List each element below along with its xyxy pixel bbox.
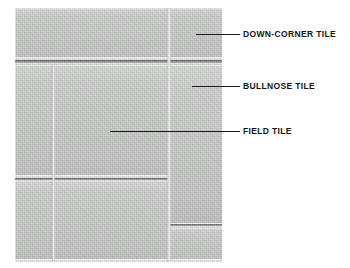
grout-line-h-top	[15, 60, 168, 65]
lower-left-field-tile	[15, 180, 52, 262]
top-wide-field-tile	[15, 8, 168, 60]
left-narrow-field-tile	[15, 65, 52, 178]
tile-photo-panel	[15, 8, 222, 262]
grout-line-h-top-r	[170, 60, 222, 65]
callout-label-down-corner: DOWN-CORNER TILE	[243, 30, 336, 39]
callout-label-field: FIELD TILE	[243, 127, 292, 136]
large-field-tile	[54, 65, 168, 178]
leader-line-field	[110, 131, 240, 132]
lower-bullnose-tile	[170, 228, 222, 262]
grout-line-h-right	[170, 224, 222, 228]
leader-line-bullnose	[192, 86, 240, 87]
grout-line-v-right	[167, 8, 171, 262]
leader-line-down-corner	[196, 34, 240, 35]
tile-diagram-figure: DOWN-CORNER TILEBULLNOSE TILEFIELD TILE	[0, 0, 350, 268]
lower-large-field-tile	[54, 180, 168, 262]
callout-label-bullnose: BULLNOSE TILE	[243, 82, 315, 91]
bullnose-tile	[170, 65, 222, 226]
grout-line-v-left	[52, 65, 55, 262]
grout-line-h-mid	[15, 178, 168, 182]
